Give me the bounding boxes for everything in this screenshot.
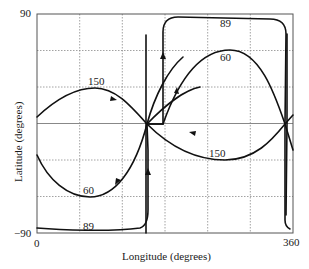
curve-label-150-left: 150 [88, 76, 105, 87]
x-axis-label: Longitude (degrees) [122, 250, 211, 262]
y-axis-label: Latitude (degrees) [12, 102, 24, 182]
curve-60-arch [163, 50, 293, 150]
x-tick-right: 360 [283, 237, 300, 248]
plot-area [0, 0, 309, 269]
curve-label-60-left: 60 [83, 185, 94, 196]
x-tick-left: 0 [34, 238, 40, 249]
curve-60 [37, 57, 183, 197]
curve-label-89-left: 89 [83, 221, 94, 232]
curve-label-150-right: 150 [209, 148, 226, 159]
curve-89-bottom [37, 124, 148, 230]
curve-150-branch [147, 87, 200, 124]
curve-label-89-right: 89 [220, 18, 231, 29]
y-tick-bottom: −90 [14, 228, 31, 239]
curve-label-60-right: 60 [220, 52, 231, 63]
y-tick-top: 90 [20, 8, 31, 19]
